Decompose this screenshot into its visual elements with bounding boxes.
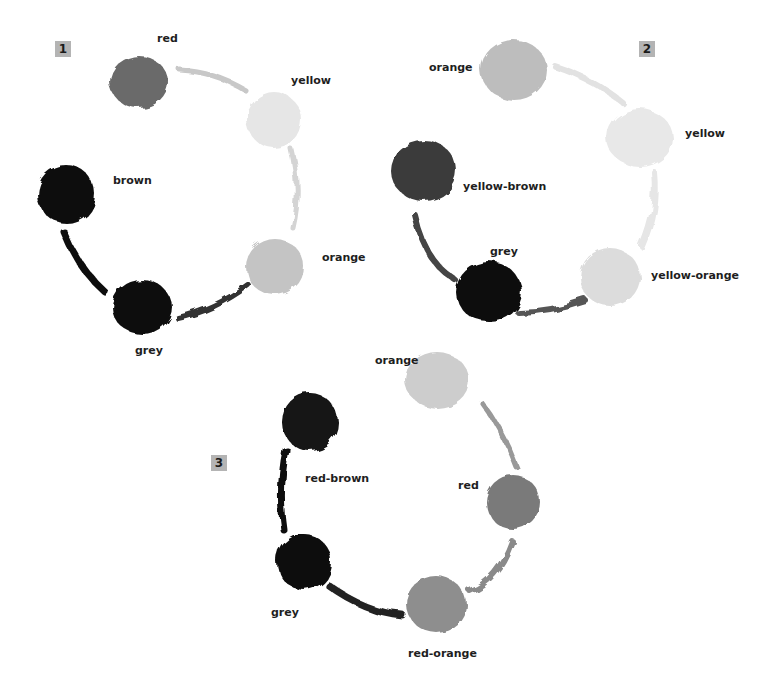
wheel-1-number-badge: 1 bbox=[55, 41, 71, 57]
wheel-3-label-orange: orange bbox=[375, 354, 419, 367]
wheel-1-label-grey: grey bbox=[135, 344, 163, 357]
wheel-3-label-red: red bbox=[458, 479, 479, 492]
wheel-1-label-brown: brown bbox=[113, 174, 152, 187]
wheel-3-label-red-orange: red-orange bbox=[408, 647, 477, 660]
wheel-1-label-red: red bbox=[157, 32, 178, 45]
wheel-2-label-yellow-orange: yellow-orange bbox=[651, 269, 739, 282]
wheel-3-label-red-brown: red-brown bbox=[305, 472, 369, 485]
wheel-2-label-grey: grey bbox=[490, 245, 518, 258]
wheel-1 bbox=[37, 40, 673, 632]
wheel-3-number-badge: 3 bbox=[211, 455, 227, 471]
wheel-3-label-grey: grey bbox=[271, 606, 299, 619]
wheel-2-number-badge: 2 bbox=[639, 41, 655, 57]
color-wheels-diagram bbox=[0, 0, 762, 688]
wheel-1-label-yellow: yellow bbox=[291, 74, 331, 87]
wheel-2-label-yellow-brown: yellow-brown bbox=[463, 180, 546, 193]
wheel-2-label-yellow: yellow bbox=[685, 127, 725, 140]
wheel-1-label-orange: orange bbox=[322, 251, 366, 264]
wheel-2-label-orange: orange bbox=[429, 61, 473, 74]
